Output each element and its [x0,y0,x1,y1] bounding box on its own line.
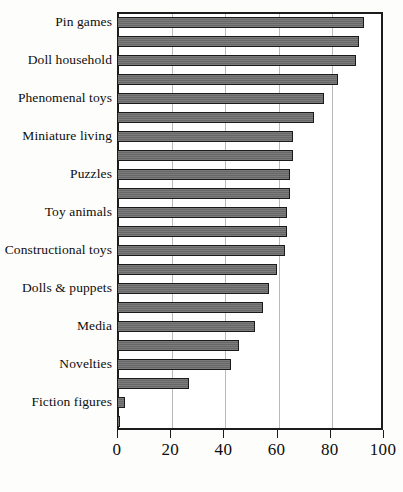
x-tick-label: 100 [370,440,396,460]
bar-fill [117,169,290,181]
bar [117,93,324,105]
x-tick-label: 60 [268,440,286,460]
bar-fill [117,150,293,162]
x-tick-0 [117,430,118,438]
bar [117,359,231,371]
bar-fill [117,17,364,29]
bar-fill [117,378,189,390]
bar [117,340,239,352]
bar [117,226,287,238]
bar [117,55,356,67]
bar [117,150,293,162]
y-axis-label: Media [77,319,112,333]
bar-fill [117,74,338,86]
bar-fill [117,340,239,352]
bar [117,169,290,181]
bar-fill [117,397,125,409]
bar-fill [117,359,231,371]
y-axis-label: Phenomenal toys [18,91,112,105]
bar-fill [117,112,314,124]
x-tick-label: 0 [113,440,122,460]
bar [117,207,287,219]
bar-fill [117,283,269,295]
y-axis-label: Puzzles [70,167,112,181]
bar [117,264,277,276]
x-tick-20 [170,430,171,438]
x-axis-ticks [117,430,383,440]
y-axis-label: Constructional toys [5,243,112,257]
bar [117,283,269,295]
bar [117,188,290,200]
y-axis-label: Miniature living [22,129,112,143]
bar [117,74,338,86]
bar-fill [117,188,290,200]
bar [117,36,359,48]
bar [117,302,263,314]
bar [117,416,120,428]
bar-fill [117,36,359,48]
x-tick-label: 40 [215,440,233,460]
y-axis-label: Doll household [28,53,112,67]
bar-fill [117,93,324,105]
y-axis-label: Fiction figures [31,395,112,409]
bar [117,112,314,124]
bar [117,131,293,143]
x-tick-80 [330,430,331,438]
bar-fill [117,264,277,276]
x-tick-100 [383,430,384,438]
bars-layer [117,12,383,430]
y-axis-labels: Pin gamesDoll householdPhenomenal toysMi… [0,12,112,430]
bar [117,321,255,333]
x-tick-40 [223,430,224,438]
bar-fill [117,207,287,219]
y-axis-label: Toy animals [45,205,112,219]
y-axis-label: Novelties [59,357,112,371]
x-tick-label: 20 [161,440,179,460]
bar-fill [117,245,285,257]
bar-fill [117,131,293,143]
bar-fill [117,226,287,238]
bar [117,245,285,257]
bar-fill [117,55,356,67]
bar-fill [117,302,263,314]
y-axis-label: Pin games [55,15,112,29]
bar-chart: Pin gamesDoll householdPhenomenal toysMi… [0,0,403,492]
x-axis-tick-labels: 020406080100 [0,440,403,470]
x-tick-label: 80 [321,440,339,460]
bar-fill [117,416,120,428]
bar [117,397,125,409]
x-tick-60 [277,430,278,438]
bar-fill [117,321,255,333]
bar [117,17,364,29]
y-axis-label: Dolls & puppets [22,281,112,295]
bar [117,378,189,390]
